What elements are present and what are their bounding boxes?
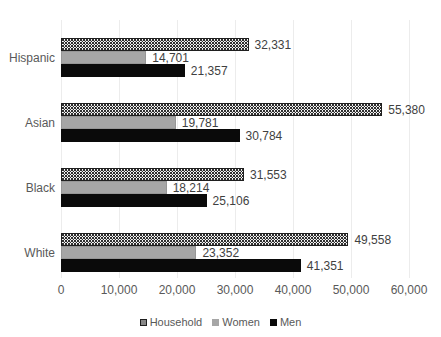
bar-women [61,51,146,64]
chart-legend: HouseholdWomenMen [0,314,441,330]
value-label: 21,357 [191,64,228,78]
category-label: Asian [0,116,55,130]
value-label: 25,106 [213,194,250,208]
x-tick-label: 10,000 [101,283,138,297]
bar-women [61,116,176,129]
bar-household [61,38,249,51]
bar-men [61,64,185,77]
value-label: 14,701 [152,51,189,65]
x-tick-label: 50,000 [333,283,370,297]
bar-women [61,181,167,194]
bar-men [61,129,240,142]
bar-household [61,233,348,246]
value-label: 32,331 [255,38,292,52]
x-tick-label: 60,000 [391,283,428,297]
x-tick-label: 40,000 [275,283,312,297]
bar-men [61,194,207,207]
bar-household [61,168,244,181]
legend-marker-women-icon [212,319,219,326]
legend-label: Women [222,316,260,328]
value-label: 31,553 [250,168,287,182]
gridline [409,20,410,278]
legend-item-household: Household [140,316,203,328]
value-label: 23,352 [202,246,239,260]
legend-marker-household-icon [140,319,147,326]
value-label: 19,781 [182,116,219,130]
value-label: 55,380 [388,103,425,117]
bar-chart: 32,33155,38031,55349,55814,70119,78118,2… [0,0,441,337]
bar-household [61,103,382,116]
x-tick-label: 30,000 [217,283,254,297]
bar-women [61,246,196,259]
value-label: 18,214 [173,181,210,195]
category-label: Hispanic [0,51,55,65]
legend-item-men: Men [270,316,301,328]
legend-marker-men-icon [270,319,277,326]
category-label: Black [0,181,55,195]
gridline [351,20,352,278]
value-label: 41,351 [307,259,344,273]
x-tick-label: 20,000 [159,283,196,297]
bar-men [61,259,301,272]
legend-label: Men [280,316,301,328]
value-label: 30,784 [246,129,283,143]
legend-item-women: Women [212,316,260,328]
category-label: White [0,246,55,260]
value-label: 49,558 [354,233,391,247]
x-tick-label: 0 [58,283,65,297]
legend-label: Household [150,316,203,328]
